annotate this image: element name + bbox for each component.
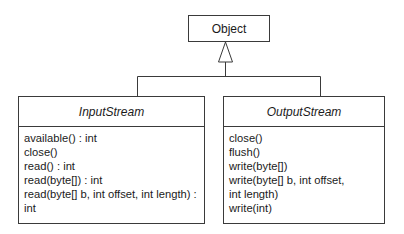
method: write(int) [229, 201, 379, 215]
method: read() : int [24, 159, 199, 173]
method: available() : int [24, 131, 199, 145]
method: write(byte[]) [229, 159, 379, 173]
method: write(byte[] b, int offset, [229, 173, 379, 187]
class-object: Object [188, 15, 270, 42]
generalization-arrowhead-icon [219, 42, 233, 62]
class-outputstream: OutputStream close() flush() write(byte[… [223, 96, 385, 224]
method: read(byte[] b, int offset, int length) : [24, 187, 199, 201]
method: close() [229, 131, 379, 145]
method: int [24, 201, 199, 215]
class-inputstream-name: InputStream [19, 97, 204, 127]
method: int length) [229, 187, 379, 201]
method: flush() [229, 145, 379, 159]
class-outputstream-name: OutputStream [224, 97, 384, 127]
method: close() [24, 145, 199, 159]
class-inputstream-methods: available() : int close() read() : int r… [19, 127, 204, 215]
class-inputstream: InputStream available() : int close() re… [18, 96, 205, 224]
class-object-name: Object [189, 16, 269, 41]
method: read(byte[]) : int [24, 173, 199, 187]
class-outputstream-methods: close() flush() write(byte[]) write(byte… [224, 127, 384, 215]
